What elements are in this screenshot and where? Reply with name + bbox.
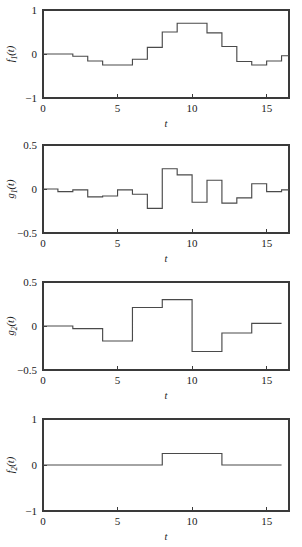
x-tick-label: 0 xyxy=(40,374,46,386)
step-series-line xyxy=(43,169,289,209)
chart-panel-1: 051015−101tf1(t) xyxy=(0,0,302,135)
x-tick-label: 15 xyxy=(261,374,273,386)
step-series-line xyxy=(43,454,282,466)
y-axis-label: f1(t) xyxy=(5,45,19,62)
x-tick-label: 10 xyxy=(187,102,199,114)
x-axis-label: t xyxy=(165,253,169,264)
y-tick-label: 0.5 xyxy=(23,139,37,151)
y-tick-label: 0 xyxy=(32,459,38,471)
step-series-line xyxy=(43,23,289,65)
step-series-line xyxy=(43,300,282,352)
x-tick-label: 5 xyxy=(115,237,121,249)
y-tick-label: −1 xyxy=(25,92,37,104)
x-tick-label: 10 xyxy=(187,374,199,386)
y-tick-label: 0 xyxy=(32,183,38,195)
y-tick-label: 1 xyxy=(32,413,38,425)
y-tick-label: 0.5 xyxy=(23,276,37,288)
x-tick-label: 0 xyxy=(40,102,46,114)
x-tick-label: 15 xyxy=(261,102,273,114)
y-axis-label: g2(t) xyxy=(5,316,19,335)
x-tick-label: 10 xyxy=(187,515,199,527)
chart-panel-3: 051015−0.500.5tg2(t) xyxy=(0,272,302,407)
y-tick-label: 0 xyxy=(32,320,38,332)
x-tick-label: 5 xyxy=(115,374,121,386)
plot-frame xyxy=(43,10,289,98)
x-tick-label: 15 xyxy=(261,237,273,249)
x-tick-label: 5 xyxy=(115,515,121,527)
x-tick-label: 0 xyxy=(40,515,46,527)
chart-panel-4: 051015−101tf2(t) xyxy=(0,407,302,547)
x-axis-label: t xyxy=(165,531,169,542)
y-tick-label: −0.5 xyxy=(17,227,37,239)
step-function-figure: 051015−101tf1(t)051015−0.500.5tg1(t)0510… xyxy=(0,0,302,547)
y-tick-label: −1 xyxy=(25,505,37,517)
x-axis-label: t xyxy=(165,390,169,401)
x-tick-label: 5 xyxy=(115,102,121,114)
y-tick-label: −0.5 xyxy=(17,364,37,376)
x-axis-label: t xyxy=(165,118,169,129)
y-tick-label: 0 xyxy=(32,48,38,60)
x-tick-label: 10 xyxy=(187,237,199,249)
x-tick-label: 15 xyxy=(261,515,273,527)
x-tick-label: 0 xyxy=(40,237,46,249)
y-tick-label: 1 xyxy=(32,4,38,16)
chart-panel-2: 051015−0.500.5tg1(t) xyxy=(0,135,302,270)
y-axis-label: g1(t) xyxy=(5,179,19,198)
y-axis-label: f2(t) xyxy=(5,456,19,473)
